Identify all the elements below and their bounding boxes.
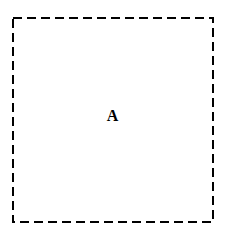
diagram-canvas: A xyxy=(0,0,229,236)
region-label-a: A xyxy=(0,107,229,125)
